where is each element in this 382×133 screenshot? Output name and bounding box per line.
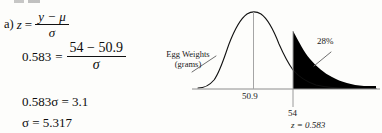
shaded-area-percent-label: 28% (317, 36, 334, 46)
normal-distribution-figure: Egg Weights (grams) 28% 50.9 54 z = 0.58… (190, 0, 382, 133)
step1-numerator: y − μ (35, 10, 69, 24)
step2-fraction: 54 − 50.9 σ (67, 41, 126, 72)
step2-denominator: σ (90, 57, 103, 72)
step1-denominator: σ (46, 25, 58, 39)
step2-lhs: 0.583 (22, 49, 51, 65)
part-label: a) (4, 17, 14, 32)
step1-equals: = (25, 17, 32, 33)
cutoff-tick-label: 54 (288, 108, 297, 118)
solution-step-3: 0.583σ = 3.1 (22, 94, 88, 110)
step1-lhs: z (17, 17, 22, 33)
worked-solution-figure-page: a) z = y − μ σ 0.583 = 54 − 50.9 σ 0.583… (0, 0, 382, 133)
solution-step-2: 0.583 = 54 − 50.9 σ (22, 41, 126, 72)
percent-leader-line (314, 52, 331, 66)
solution-step-4: σ = 5.317 (22, 115, 72, 131)
solution-step-1: a) z = y − μ σ (4, 10, 69, 39)
cropped-text-artifact (14, 0, 40, 3)
mean-tick-label: 50.9 (242, 91, 258, 101)
axis-label-line-2: (grams) (150, 59, 226, 69)
cutoff-zscore-label: z = 0.583 (291, 120, 325, 130)
axis-label-egg-weights: Egg Weights (grams) (150, 49, 226, 69)
step2-numerator: 54 − 50.9 (67, 41, 126, 56)
axis-label-line-1: Egg Weights (150, 49, 226, 59)
solution-steps: a) z = y − μ σ 0.583 = 54 − 50.9 σ 0.583… (0, 6, 190, 133)
step1-fraction: y − μ σ (35, 10, 69, 39)
step2-equals: = (55, 49, 62, 65)
